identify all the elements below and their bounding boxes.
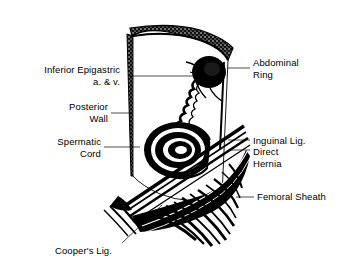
label-femoral-sheath: Femoral Sheath bbox=[257, 191, 340, 203]
label-direct-hernia: Direct Hernia bbox=[253, 146, 333, 169]
label-inguinal-lig: Inguinal Lig. bbox=[253, 135, 339, 147]
label-inferior-epigastric: Inferior Epigastric a. & v. bbox=[10, 64, 120, 87]
label-spermatic-cord: Spermatic Cord bbox=[14, 136, 101, 159]
label-abdominal-ring: Abdominal Ring bbox=[253, 57, 337, 80]
label-posterior-wall: Posterior Wall bbox=[20, 101, 108, 124]
label-coopers-lig: Cooper's Lig. bbox=[55, 245, 145, 257]
